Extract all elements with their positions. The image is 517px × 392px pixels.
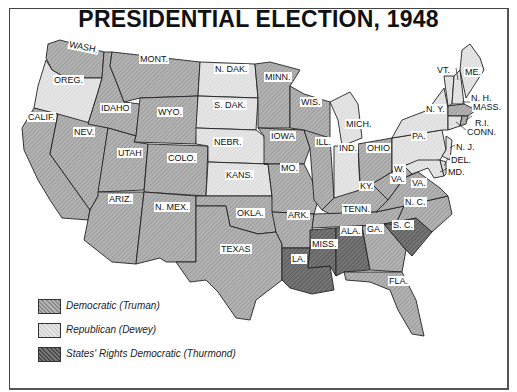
label-nj: N. J.: [455, 142, 476, 152]
label-oreg: OREG.: [53, 75, 84, 85]
label-ala: ALA.: [340, 226, 362, 236]
label-la: LA.: [291, 254, 307, 264]
label-calif: CALIF.: [27, 112, 56, 122]
label-iowa: IOWA: [270, 131, 296, 141]
label-okla: OKLA.: [236, 208, 265, 218]
label-ga: GA.: [366, 224, 384, 234]
label-texas: TEXAS: [220, 244, 252, 254]
label-nmex: N. MEX.: [154, 202, 190, 212]
label-me: ME.: [464, 67, 482, 77]
label-mich: MICH.: [345, 119, 373, 129]
swatch-democratic: [38, 299, 61, 314]
label-mont: MONT.: [139, 54, 169, 64]
label-mo: MO.: [280, 163, 299, 173]
legend-label-republican: Republican (Dewey): [66, 324, 156, 335]
label-idaho: IDAHO: [100, 103, 131, 113]
label-wash: WASH.: [67, 39, 100, 55]
label-md: MD.: [447, 167, 466, 177]
label-fla: FLA.: [388, 276, 409, 286]
swatch-republican: [38, 323, 61, 338]
label-wva-2: VA.: [390, 174, 406, 184]
label-ohio: OHIO: [366, 143, 391, 153]
label-pa: PA.: [411, 131, 427, 141]
label-vt: VT.: [436, 65, 451, 75]
legend-label-democratic: Democratic (Truman): [66, 300, 160, 311]
swatch-states-rights: [38, 347, 61, 362]
label-minn: MINN.: [264, 72, 292, 82]
label-utah: UTAH: [117, 148, 143, 158]
label-ill: ILL.: [315, 137, 332, 147]
label-va: VA.: [411, 178, 427, 188]
label-wis: WIS.: [300, 97, 322, 107]
label-ariz: ARIZ.: [108, 194, 133, 204]
label-sdak: S. DAK.: [213, 100, 247, 110]
label-ind: IND.: [338, 143, 358, 153]
label-del: DEL.: [450, 155, 472, 165]
label-mass: MASS.: [472, 102, 502, 112]
label-wva-1: W.: [393, 164, 406, 174]
label-colo: COLO.: [167, 153, 197, 163]
label-ny: N. Y.: [425, 104, 446, 114]
label-nev: NEV.: [73, 127, 95, 137]
label-conn: CONN.: [466, 127, 497, 137]
label-kans: KANS.: [225, 170, 254, 180]
label-ark: ARK.: [287, 210, 310, 220]
label-nc: N. C.: [404, 197, 427, 207]
label-nebr: NEBR.: [213, 137, 243, 147]
label-sc: S. C.: [392, 220, 414, 230]
label-ky: KY.: [359, 181, 374, 191]
legend-label-states-rights: States' Rights Democratic (Thurmond): [66, 348, 236, 359]
label-wyo: WYO.: [157, 107, 183, 117]
label-miss: MISS.: [311, 239, 338, 249]
label-tenn: TENN.: [342, 204, 371, 214]
label-ndak: N. DAK.: [214, 64, 249, 74]
